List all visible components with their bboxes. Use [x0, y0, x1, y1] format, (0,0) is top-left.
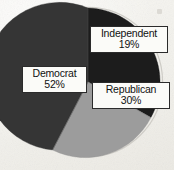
scan-artifact-speck: [157, 9, 162, 14]
slice-label-independent-value: 19%: [94, 39, 164, 50]
slice-label-republican-value: 30%: [96, 95, 166, 106]
slice-label-democrat-value: 52%: [26, 79, 83, 90]
pie-chart-image: Independent 19% Democrat 52% Republican …: [0, 0, 174, 170]
slice-label-democrat: Democrat 52%: [22, 66, 87, 93]
slice-label-independent: Independent 19%: [90, 26, 168, 53]
slice-label-republican: Republican 30%: [92, 82, 170, 109]
